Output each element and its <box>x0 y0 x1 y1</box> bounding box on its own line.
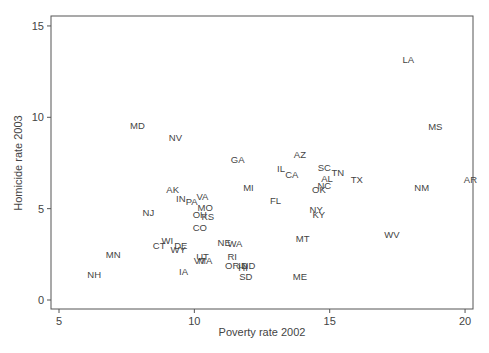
point-label-az: AZ <box>294 149 306 160</box>
point-label-fl: FL <box>270 195 281 206</box>
point-label-ma: MA <box>198 255 213 266</box>
point-label-va: VA <box>196 191 209 202</box>
point-label-ga: GA <box>231 154 245 165</box>
point-label-la: LA <box>402 54 414 65</box>
x-tick-label: 15 <box>324 315 336 327</box>
point-label-nd: ND <box>242 260 256 271</box>
point-label-mt: MT <box>296 233 310 244</box>
y-axis-label: Homicide rate 2003 <box>12 115 24 210</box>
point-label-ct: CT <box>153 240 166 251</box>
x-tick-label: 5 <box>56 315 62 327</box>
point-label-wy: WY <box>170 244 186 255</box>
y-tick-label: 15 <box>32 20 44 32</box>
point-label-ms: MS <box>428 121 442 132</box>
y-axis: 051015 <box>32 20 51 306</box>
point-label-md: MD <box>130 120 145 131</box>
point-label-nm: NM <box>414 182 429 193</box>
point-label-il: IL <box>277 163 285 174</box>
point-label-nv: NV <box>169 132 183 143</box>
x-axis: 5101520 <box>56 309 471 327</box>
point-label-sd: SD <box>239 271 252 282</box>
point-label-nj: NJ <box>143 207 155 218</box>
point-label-in: IN <box>176 193 186 204</box>
point-label-mn: MN <box>106 249 121 260</box>
point-label-tn: TN <box>331 167 344 178</box>
y-tick-label: 5 <box>38 203 44 215</box>
data-points: LAMDNVMSGAAZILCASCTNALNCOKTXNMARMIFLNYKY… <box>87 54 477 282</box>
point-label-ia: IA <box>179 266 189 277</box>
point-label-ar: AR <box>464 174 477 185</box>
point-label-me: ME <box>293 271 307 282</box>
point-label-ok: OK <box>312 184 326 195</box>
point-label-ky: KY <box>313 209 326 220</box>
point-label-nh: NH <box>87 269 101 280</box>
y-tick-label: 0 <box>38 294 44 306</box>
point-label-wa: WA <box>227 238 243 249</box>
x-tick-label: 10 <box>188 315 200 327</box>
x-tick-label: 20 <box>459 315 471 327</box>
x-axis-label: Poverty rate 2002 <box>219 326 306 338</box>
point-label-co: CO <box>193 222 207 233</box>
point-label-mi: MI <box>243 182 254 193</box>
point-label-ks: KS <box>202 211 215 222</box>
point-label-ca: CA <box>285 169 299 180</box>
scatter-chart: 051015 5101520 LAMDNVMSGAAZILCASCTNALNCO… <box>0 0 489 353</box>
point-label-sc: SC <box>318 162 331 173</box>
point-label-wv: WV <box>384 229 400 240</box>
point-label-tx: TX <box>351 174 364 185</box>
y-tick-label: 10 <box>32 111 44 123</box>
